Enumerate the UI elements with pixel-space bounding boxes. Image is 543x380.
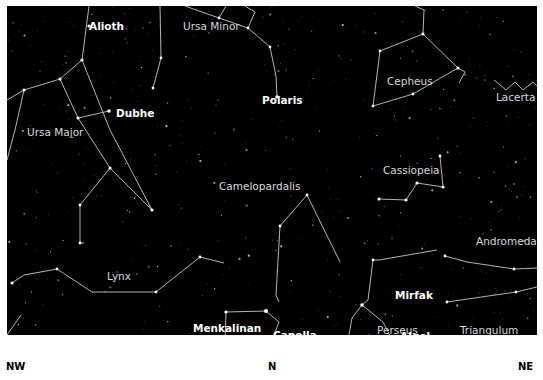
- constellation-label-ursa-minor: Ursa Minor: [183, 21, 240, 32]
- constellation-label-cepheus: Cepheus: [387, 76, 433, 87]
- star-label-capella: Capella: [273, 330, 317, 335]
- star-label-polaris: Polaris: [262, 95, 303, 106]
- constellation-lines: [7, 6, 537, 335]
- star-label-menkalinan: Menkalinan: [193, 323, 261, 334]
- star-label-algol: Algol: [400, 331, 430, 335]
- constellation-label-ursa-major: Ursa Major: [27, 127, 83, 138]
- star-label-dubhe: Dubhe: [116, 108, 154, 119]
- constellation-label-lynx: Lynx: [107, 271, 131, 282]
- direction-nw: NW: [6, 362, 25, 372]
- star-label-alioth: Alioth: [89, 21, 124, 32]
- constellation-label-camelopardalis: Camelopardalis: [219, 181, 300, 192]
- direction-ne: NE: [518, 362, 533, 372]
- star-label-mirfak: Mirfak: [395, 290, 433, 301]
- constellation-label-triangulum: Triangulum: [460, 325, 518, 335]
- constellation-label-cassiopeia: Cassiopeia: [383, 165, 440, 176]
- sky-map: Ursa MinorCepheusLacertaUrsa MajorCamelo…: [7, 6, 537, 335]
- direction-n: N: [268, 362, 276, 372]
- constellation-label-lacerta: Lacerta: [496, 92, 535, 103]
- constellation-label-andromeda: Andromeda: [476, 236, 537, 247]
